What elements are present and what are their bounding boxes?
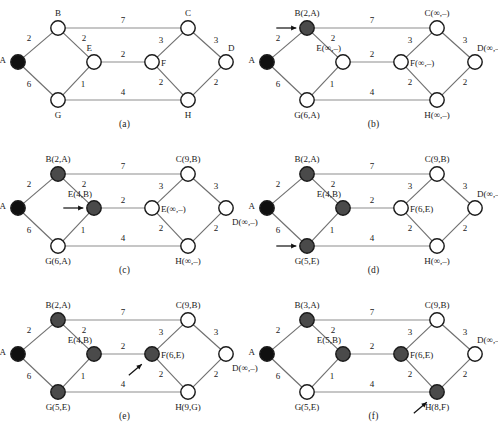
node-F — [145, 201, 159, 215]
edge-weight-AB: 2 — [27, 325, 32, 335]
panel-caption-d: (d) — [249, 265, 498, 275]
edge-weight-FH: 2 — [159, 223, 164, 233]
edge-weight-EG: 1 — [330, 225, 335, 235]
node-A — [260, 347, 274, 361]
node-D — [468, 347, 482, 361]
node-label-F: F(6,E) — [161, 350, 184, 360]
edge-weight-EG: 1 — [330, 79, 335, 89]
panel-f: 26272143322AB(3,A)E(5,B)G(5,E)C(9,B)F(6,… — [249, 292, 498, 438]
node-G — [300, 93, 314, 107]
node-label-A: A — [249, 347, 256, 357]
node-label-F: F — [161, 58, 166, 68]
node-F — [394, 201, 408, 215]
node-G — [51, 239, 65, 253]
node-B — [300, 313, 314, 327]
edge-weight-DH: 2 — [463, 77, 468, 87]
edge-weight-BC: 7 — [121, 161, 126, 171]
node-H — [430, 239, 444, 253]
edge-weight-EF: 2 — [370, 195, 375, 205]
panel-caption-c: (c) — [0, 265, 249, 275]
node-C — [430, 167, 444, 181]
node-label-B: B(3,A) — [294, 300, 319, 310]
node-label-E: E(4,B) — [68, 189, 92, 199]
node-label-B: B — [55, 8, 61, 18]
node-A — [260, 55, 274, 69]
edge-weight-DH: 2 — [214, 223, 219, 233]
edge-weight-FH: 2 — [408, 77, 413, 87]
edge-weight-EF: 2 — [121, 49, 126, 59]
node-C — [181, 21, 195, 35]
node-A — [11, 201, 25, 215]
edge-weight-EG: 1 — [81, 79, 86, 89]
node-G — [300, 385, 314, 399]
node-C — [181, 167, 195, 181]
node-D — [219, 201, 233, 215]
edge-weight-BE: 2 — [82, 325, 87, 335]
panel-e: 26272143322AB(2,A)E(4,B)G(5,E)C(9,B)F(6,… — [0, 292, 249, 438]
node-label-E: E(5,B) — [317, 335, 341, 345]
panel-c: 26272143322AB(2,A)E(4,B)G(6,A)C(9,B)E(∞,… — [0, 146, 249, 292]
node-label-A: A — [0, 201, 7, 211]
edge-weight-EF: 2 — [121, 195, 126, 205]
node-B — [300, 21, 314, 35]
panel-caption-a: (a) — [0, 119, 249, 129]
pointer-arrow-B — [276, 26, 296, 31]
pointer-arrow-F — [129, 364, 142, 375]
node-F — [145, 55, 159, 69]
edge-weight-EG: 1 — [81, 371, 86, 381]
edge-weight-CF: 3 — [408, 327, 413, 337]
node-D — [219, 55, 233, 69]
edge-weight-AG: 6 — [276, 225, 281, 235]
pointer-arrow-E — [63, 206, 83, 211]
node-label-B: B(2,A) — [294, 8, 319, 18]
node-E — [336, 347, 350, 361]
edge-weight-BC: 7 — [121, 307, 126, 317]
edge-weight-AG: 6 — [27, 225, 32, 235]
node-G — [300, 239, 314, 253]
edge-weight-GH: 4 — [370, 233, 375, 243]
node-label-C: C(9,B) — [176, 300, 201, 310]
node-A — [11, 55, 25, 69]
node-E — [336, 55, 350, 69]
dijkstra-figure: 26272143322ABEGCFDH(a)26272143322AB(2,A)… — [0, 0, 498, 440]
edge-weight-CD: 3 — [463, 327, 468, 337]
edge-weight-EG: 1 — [330, 371, 335, 381]
edge-weight-GH: 4 — [121, 379, 126, 389]
node-label-A: A — [0, 347, 7, 357]
node-label-D: D — [228, 43, 235, 53]
node-label-E: E(4,B) — [68, 335, 92, 345]
graph-stage-c: 26272143322AB(2,A)E(4,B)G(6,A)C(9,B)E(∞,… — [0, 146, 249, 276]
node-H — [430, 385, 444, 399]
edge-weight-FH: 2 — [159, 77, 164, 87]
edge-weight-CF: 3 — [159, 35, 164, 45]
panel-caption-f: (f) — [249, 411, 498, 421]
edge-weight-CD: 3 — [463, 181, 468, 191]
node-D — [219, 347, 233, 361]
edge-weight-AG: 6 — [276, 371, 281, 381]
edge-weight-CF: 3 — [159, 327, 164, 337]
graph-stage-b: 26272143322AB(2,A)E(∞,–)G(6,A)C(∞,–)F(∞,… — [249, 0, 498, 130]
node-E — [336, 201, 350, 215]
edge-weight-CD: 3 — [214, 327, 219, 337]
node-label-F: E(∞,–) — [161, 204, 186, 214]
edge-weight-BC: 7 — [370, 15, 375, 25]
edge-weight-FH: 2 — [408, 223, 413, 233]
edge-weight-BC: 7 — [370, 161, 375, 171]
graph-stage-f: 26272143322AB(3,A)E(5,B)G(5,E)C(9,B)F(6,… — [249, 292, 498, 422]
node-D — [468, 201, 482, 215]
graph-stage-d: 26272143322AB(2,A)E(4,B)G(5,E)C(9,B)F(6,… — [249, 146, 498, 276]
edge-weight-EG: 1 — [81, 225, 86, 235]
node-label-D: D(∞,–) — [477, 189, 498, 199]
edge-weight-BE: 2 — [82, 33, 87, 43]
node-C — [430, 21, 444, 35]
graph-stage-a: 26272143322ABEGCFDH — [0, 0, 249, 130]
panel-caption-b: (b) — [249, 119, 498, 129]
node-D — [468, 55, 482, 69]
node-H — [181, 385, 195, 399]
node-E — [87, 55, 101, 69]
edge-weight-GH: 4 — [121, 87, 126, 97]
edge-weight-AG: 6 — [27, 371, 32, 381]
node-label-C: C(9,B) — [425, 300, 450, 310]
graph-stage-e: 26272143322AB(2,A)E(4,B)G(5,E)C(9,B)F(6,… — [0, 292, 249, 422]
edge-weight-FH: 2 — [159, 369, 164, 379]
